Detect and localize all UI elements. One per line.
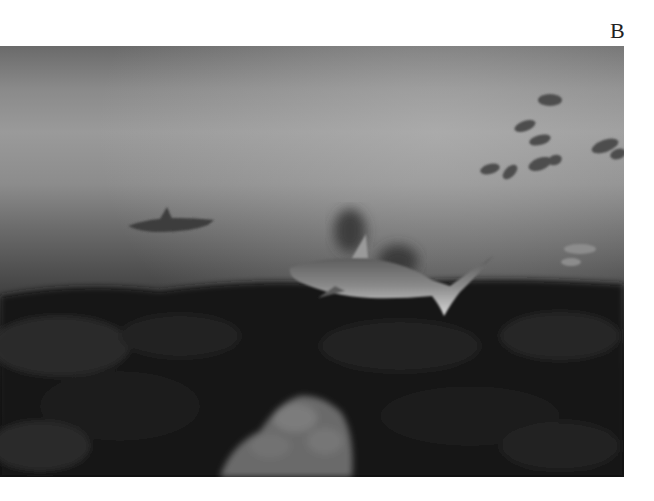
- underwater-photo: [0, 46, 624, 477]
- distant-shark: [128, 207, 214, 232]
- pale-fish: [561, 244, 596, 266]
- scene-shapes: [0, 46, 624, 477]
- fish-school: [479, 94, 624, 182]
- panel-label: B: [610, 20, 625, 42]
